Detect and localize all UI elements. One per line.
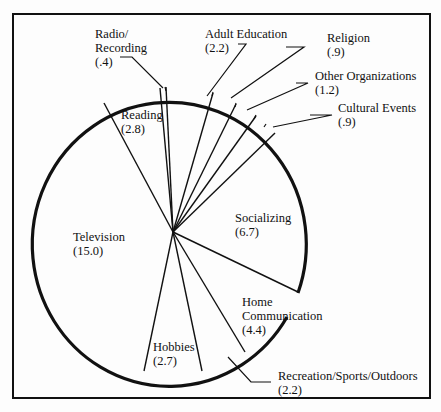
- label-text: Reading: [121, 108, 163, 122]
- label-text: Other Organizations: [315, 69, 416, 83]
- label-value: (2.8): [121, 122, 163, 136]
- label-value: (.9): [327, 45, 370, 59]
- label-text: Home: [242, 295, 323, 309]
- label-value: (2.7): [153, 354, 195, 368]
- label-value: (15.0): [73, 244, 125, 258]
- label-recreation: Recreation/Sports/Outdoors (2.2): [278, 369, 418, 397]
- label-text: Communication: [242, 309, 323, 323]
- label-radio: Radio/ Recording (.4): [95, 27, 147, 69]
- pie-chart: [0, 0, 441, 412]
- label-religion: Religion (.9): [327, 31, 370, 59]
- label-value: (.9): [338, 115, 416, 129]
- label-cultural-events: Cultural Events (.9): [338, 101, 416, 129]
- label-text: Cultural Events: [338, 101, 416, 115]
- label-value: (1.2): [315, 83, 416, 97]
- label-television: Television (15.0): [73, 230, 125, 258]
- label-text: Recording: [95, 41, 147, 55]
- label-value: (2.2): [278, 383, 418, 397]
- label-value: (6.7): [235, 225, 291, 239]
- label-text: Television: [73, 230, 125, 244]
- label-text: Recreation/Sports/Outdoors: [278, 369, 418, 383]
- label-text: Radio/: [95, 27, 147, 41]
- label-home-communication: Home Communication (4.4): [242, 295, 323, 337]
- label-reading: Reading (2.8): [121, 108, 163, 136]
- label-value: (2.2): [205, 41, 287, 55]
- arc-ticks: [165, 87, 266, 127]
- label-other-organizations: Other Organizations (1.2): [315, 69, 416, 97]
- label-text: Hobbies: [153, 340, 195, 354]
- label-socializing: Socializing (6.7): [235, 211, 291, 239]
- label-adult-education: Adult Education (2.2): [205, 27, 287, 55]
- label-value: (4.4): [242, 323, 323, 337]
- label-text: Socializing: [235, 211, 291, 225]
- label-text: Adult Education: [205, 27, 287, 41]
- label-text: Religion: [327, 31, 370, 45]
- label-value: (.4): [95, 55, 147, 69]
- label-hobbies: Hobbies (2.7): [153, 340, 195, 368]
